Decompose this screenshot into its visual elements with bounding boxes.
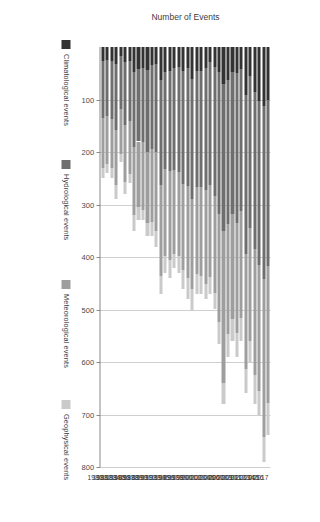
bar-row[interactable] xyxy=(195,47,198,467)
x-tick-400 xyxy=(97,257,101,258)
bar-segment-3 xyxy=(101,168,104,178)
legend-item[interactable]: Hydrological events xyxy=(62,160,71,240)
bar-segment-3 xyxy=(182,270,185,288)
bar-segment-3 xyxy=(191,289,194,310)
bar-segment-1 xyxy=(133,72,136,147)
bar-segment-3 xyxy=(186,278,189,299)
bar-segment-3 xyxy=(222,383,225,404)
legend-swatch-icon xyxy=(62,280,71,289)
bar-row[interactable] xyxy=(119,47,122,467)
bar-segment-1 xyxy=(110,61,113,120)
bar-row[interactable] xyxy=(159,47,162,467)
bar-row[interactable] xyxy=(226,47,229,467)
x-tick-200 xyxy=(97,152,101,153)
bar-row[interactable] xyxy=(115,47,118,467)
legend-item[interactable]: Climatological events xyxy=(62,40,71,126)
bar-segment-3 xyxy=(155,231,158,247)
bar-segment-3 xyxy=(195,274,198,294)
bar-segment-1 xyxy=(146,70,149,152)
bar-segment-3 xyxy=(146,223,149,236)
bar-segment-0 xyxy=(173,47,176,68)
bar-row[interactable] xyxy=(168,47,171,467)
bar-segment-1 xyxy=(204,68,207,190)
bar-segment-3 xyxy=(141,210,144,221)
bar-segment-2 xyxy=(177,172,180,256)
bar-segment-1 xyxy=(195,71,198,188)
bar-row[interactable] xyxy=(218,47,221,467)
bar-segment-0 xyxy=(240,47,241,69)
bar-segment-1 xyxy=(159,80,162,185)
bar-row[interactable] xyxy=(200,47,203,467)
x-tick-800 xyxy=(97,467,101,468)
x-tick-100 xyxy=(97,100,101,101)
legend-item[interactable]: Meteorological events xyxy=(62,280,71,368)
bar-segment-3 xyxy=(209,277,212,294)
bar-row[interactable] xyxy=(141,47,144,467)
bar-segment-0 xyxy=(128,47,131,61)
bar-row[interactable] xyxy=(182,47,185,467)
bar-row[interactable] xyxy=(222,47,225,467)
bar-row[interactable] xyxy=(204,47,207,467)
bar-row[interactable] xyxy=(240,47,241,467)
bar-row[interactable] xyxy=(231,47,234,467)
bar-row[interactable] xyxy=(106,47,109,467)
year-label-1980: 1980 xyxy=(88,474,103,481)
bar-segment-2 xyxy=(191,199,194,288)
bar-row[interactable] xyxy=(177,47,180,467)
bar-segment-1 xyxy=(177,67,180,172)
bar-row[interactable] xyxy=(137,47,140,467)
bar-segment-2 xyxy=(124,125,127,183)
bar-segment-1 xyxy=(240,69,241,211)
bar-row[interactable] xyxy=(186,47,189,467)
bar-segment-1 xyxy=(124,62,127,125)
x-tick-300 xyxy=(97,205,101,206)
legend-swatch-icon xyxy=(62,160,71,169)
bar-segment-0 xyxy=(150,47,153,65)
bar-segment-0 xyxy=(231,47,234,72)
bar-row[interactable] xyxy=(213,47,216,467)
bar-segment-0 xyxy=(186,47,189,68)
bar-segment-0 xyxy=(141,47,144,68)
legend-item[interactable]: Geophysical events xyxy=(62,400,71,480)
bar-row[interactable] xyxy=(101,47,104,467)
bar-row[interactable] xyxy=(146,47,149,467)
x-tick-600 xyxy=(97,362,101,363)
bar-segment-1 xyxy=(150,65,153,149)
bar-segment-2 xyxy=(200,187,203,276)
bar-segment-1 xyxy=(213,67,216,196)
bar-segment-3 xyxy=(231,319,234,341)
bar-row[interactable] xyxy=(128,47,131,467)
bar-segment-3 xyxy=(115,185,118,199)
bar-row[interactable] xyxy=(209,47,212,467)
bar-segment-0 xyxy=(204,47,207,68)
legend-swatch-icon xyxy=(62,400,71,409)
bar-segment-0 xyxy=(101,47,104,61)
bar-row[interactable] xyxy=(124,47,127,467)
bar-segment-0 xyxy=(155,47,158,64)
bars-layer xyxy=(101,47,242,467)
gridline-800 xyxy=(101,467,242,468)
bar-segment-3 xyxy=(213,293,216,310)
bar-row[interactable] xyxy=(110,47,113,467)
bar-row[interactable] xyxy=(155,47,158,467)
legend-label: Climatological events xyxy=(62,54,71,126)
bar-segment-0 xyxy=(110,47,113,61)
bar-segment-0 xyxy=(146,47,149,70)
bar-row[interactable] xyxy=(191,47,194,467)
bar-row[interactable] xyxy=(133,47,136,467)
bar-row[interactable] xyxy=(164,47,167,467)
legend-label: Hydrological events xyxy=(62,174,71,240)
bar-segment-3 xyxy=(159,276,162,293)
bar-segment-0 xyxy=(164,47,167,72)
bar-segment-3 xyxy=(164,256,167,273)
bar-segment-0 xyxy=(137,47,140,69)
bar-row[interactable] xyxy=(173,47,176,467)
bar-row[interactable] xyxy=(235,47,238,467)
bar-segment-2 xyxy=(195,187,198,274)
bar-segment-0 xyxy=(119,47,122,56)
bar-row[interactable] xyxy=(150,47,153,467)
bar-segment-1 xyxy=(137,69,140,141)
legend-label: Meteorological events xyxy=(62,294,71,368)
bar-segment-1 xyxy=(226,80,229,224)
bar-segment-2 xyxy=(218,214,221,322)
